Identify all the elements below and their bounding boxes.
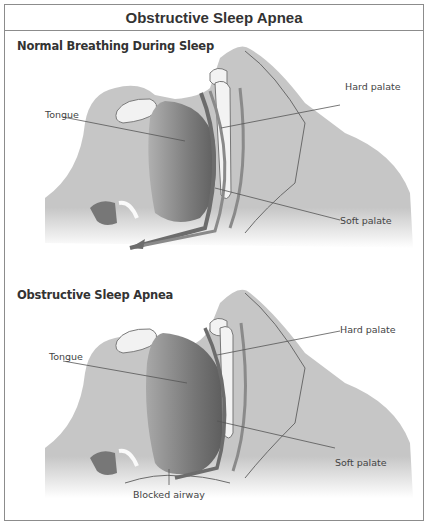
label-soft-palate-apnea: Soft palate [335,457,387,468]
title-bar: Obstructive Sleep Apnea [5,5,423,31]
obstructive-apnea-illustration [5,283,425,508]
diagram-title: Obstructive Sleep Apnea [126,9,303,26]
label-soft-palate-normal: Soft palate [340,215,392,226]
label-tongue-normal: Tongue [45,109,79,120]
label-blocked-airway: Blocked airway [133,489,205,500]
label-tongue-apnea: Tongue [49,351,83,362]
label-hard-palate-normal: Hard palate [345,81,401,92]
diagram-frame: Obstructive Sleep Apnea Normal Breathing… [4,4,424,521]
label-hard-palate-apnea: Hard palate [340,324,396,335]
